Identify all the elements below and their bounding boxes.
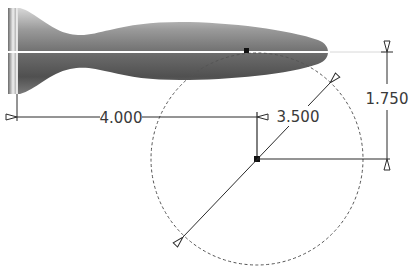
dim-label-horizontal[interactable]: 4.000 bbox=[100, 109, 143, 127]
dim-label-vertical[interactable]: 1.750 bbox=[366, 90, 409, 108]
dimension-horizontal[interactable]: 4.000 bbox=[17, 94, 257, 159]
sketch-canvas[interactable]: 4.000 1.750 3.500 bbox=[0, 0, 417, 275]
dim-label-diameter[interactable]: 3.500 bbox=[277, 108, 320, 126]
sketch-point[interactable] bbox=[244, 48, 249, 53]
dimension-diameter[interactable]: 3.500 bbox=[183, 83, 330, 237]
